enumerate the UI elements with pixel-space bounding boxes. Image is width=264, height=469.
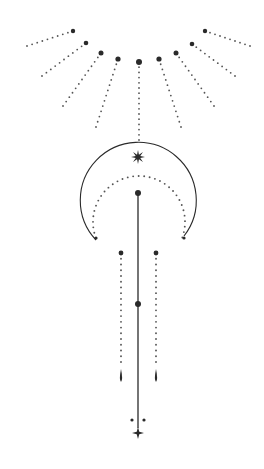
ray-dot (172, 100, 174, 102)
moon-inner-dot (92, 221, 94, 223)
ray-dot (138, 92, 140, 94)
ray-dot (68, 96, 70, 98)
ray-dot (217, 62, 219, 64)
drop-dot (155, 361, 157, 363)
ray-dot (213, 105, 215, 107)
ray-dot (188, 70, 190, 72)
ray-dot (114, 69, 116, 71)
ray-dot (138, 82, 140, 84)
ray-dot (175, 110, 177, 112)
ray-dot (72, 92, 74, 94)
ray-dot (221, 66, 223, 68)
ray-dot (138, 77, 140, 79)
ray-dot (209, 32, 211, 34)
moon-inner-dot (184, 226, 186, 228)
ray-dot (178, 121, 180, 123)
moon-inner-dot (93, 210, 95, 212)
ray-dot (195, 46, 197, 48)
moon-inner-dot (92, 226, 94, 228)
ray-dot (54, 65, 56, 67)
drop-dot (120, 321, 122, 323)
teardrop-icon (120, 369, 122, 382)
ray-head-dot (115, 56, 120, 61)
ray-dot (98, 116, 100, 118)
ray-dot (229, 38, 231, 40)
ray-head-dot (174, 51, 179, 56)
ray-dot (94, 61, 96, 63)
sparkle-icon (132, 427, 144, 439)
drop-dot (155, 315, 157, 317)
ray-dot (219, 35, 221, 37)
ray-dot (234, 40, 236, 42)
ray-dot (97, 121, 99, 123)
center-stem (135, 190, 141, 428)
ray-head-dot (71, 29, 75, 33)
ray-dot (167, 84, 169, 86)
ray-dot (173, 105, 175, 107)
ray-dot (207, 96, 209, 98)
moon-inner-dot (93, 232, 95, 234)
ray-dot (185, 65, 187, 67)
drop-dot (120, 281, 122, 283)
ray-dot (59, 62, 61, 64)
ray-dot (200, 50, 202, 52)
drop-dot (155, 275, 157, 277)
ray-dot (68, 55, 70, 57)
ray-dot (67, 32, 69, 34)
drop-dot (155, 344, 157, 346)
moon-inner-dot (181, 204, 183, 206)
ray-dot (26, 45, 28, 47)
ray-dot (194, 79, 196, 81)
ray-dot (46, 72, 48, 74)
ray-dot (138, 87, 140, 89)
ray-dot (102, 105, 104, 107)
ray-dot (97, 57, 99, 59)
ray-head-dot (156, 56, 161, 61)
ray-dot (210, 101, 212, 103)
drop-dot (120, 286, 122, 288)
drop-dot (155, 281, 157, 283)
ray-dot (75, 87, 77, 89)
ray-dot (62, 33, 64, 35)
ray-dot (165, 79, 167, 81)
moon-inner-dot (112, 183, 114, 185)
drop-dot (155, 304, 157, 306)
ray-dot (87, 70, 89, 72)
drop-dot (155, 355, 157, 357)
sun-rays (26, 29, 251, 141)
ray-dot (138, 118, 140, 120)
moon-inner-dot (154, 178, 156, 180)
drop-dot (120, 338, 122, 340)
drop-dot (120, 327, 122, 329)
ray-dot (138, 129, 140, 131)
ray-dot (234, 75, 236, 77)
drop-dot (120, 298, 122, 300)
moon-inner-dot (183, 231, 185, 233)
ray-dot (230, 72, 232, 74)
ray-dot (138, 98, 140, 100)
moon-inner-dot (95, 205, 97, 207)
drop-dot (155, 258, 157, 260)
drop-dot (120, 264, 122, 266)
ray-dot (138, 134, 140, 136)
drop-dot (120, 258, 122, 260)
ray-dot (213, 59, 215, 61)
moon-inner-dot (159, 180, 161, 182)
ray-dot (138, 72, 140, 74)
drop-dot (155, 269, 157, 271)
ray-dot (47, 38, 49, 40)
moon-inner-dot (117, 180, 119, 182)
drop-dot (120, 309, 122, 311)
drop-dot (155, 298, 157, 300)
ray-dot (244, 43, 246, 45)
moon-inner-dot (92, 215, 94, 217)
ray-head-dot (99, 51, 104, 56)
drop-dot (120, 350, 122, 352)
ray-dot (239, 42, 241, 44)
moon-inner-dot (132, 175, 134, 177)
ray-dot (138, 108, 140, 110)
drop-dot (155, 309, 157, 311)
ray-dot (168, 89, 170, 91)
drop-dot (120, 269, 122, 271)
moon-inner-dot (172, 190, 174, 192)
